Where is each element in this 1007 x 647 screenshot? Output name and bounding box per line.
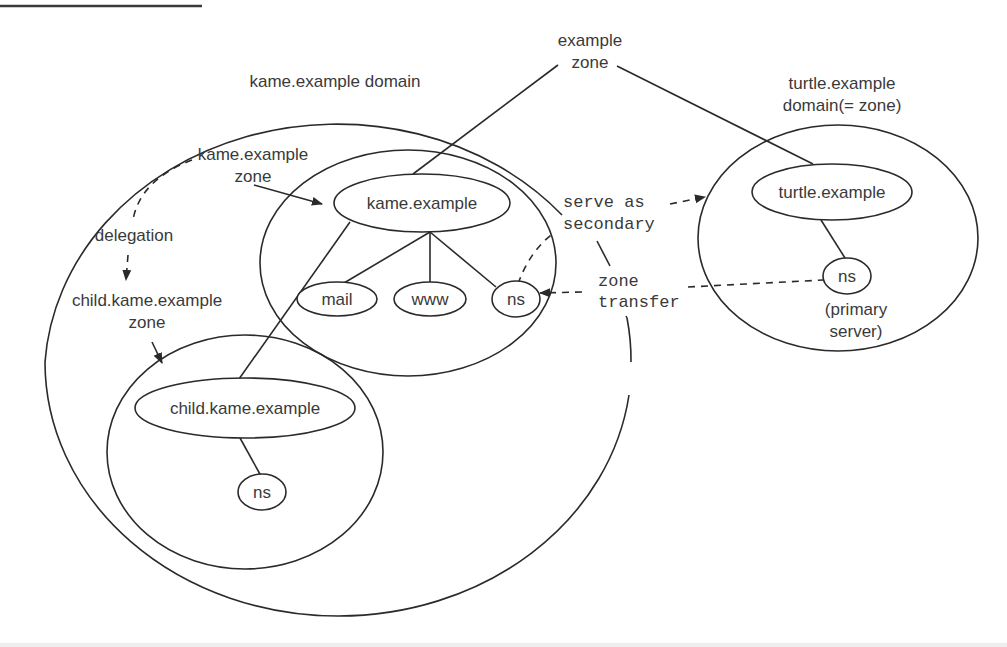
- bottom-edge: [0, 643, 1007, 647]
- child-zone-pointer: [152, 342, 162, 363]
- child-zone-label: child.kame.example: [72, 291, 222, 310]
- node-mail: mail: [297, 282, 377, 316]
- dns-zone-diagram: kame.example mail www ns child.kame.exam…: [0, 0, 1007, 647]
- edge-child-ns: [240, 438, 261, 476]
- serve-secondary-arrow: [670, 197, 705, 204]
- kame-domain-label: kame.example domain: [249, 72, 420, 91]
- edge-example-turtle: [617, 66, 813, 164]
- node-child-ns: ns: [238, 474, 286, 510]
- node-label: child.kame.example: [170, 399, 320, 418]
- zone-transfer-label: zone: [598, 272, 639, 291]
- node-child-kame-example: child.kame.example: [135, 378, 355, 438]
- child-zone-label-2: zone: [129, 313, 166, 332]
- zone-transfer-arrow-left: [540, 292, 582, 293]
- serve-secondary-link: [518, 232, 555, 284]
- node-label: kame.example: [367, 194, 478, 213]
- zone-transfer-leader-bottom: [626, 316, 627, 318]
- node-kame-example: kame.example: [334, 174, 510, 232]
- edge-kame-mail: [344, 232, 430, 283]
- node-kame-ns: ns: [492, 281, 540, 317]
- turtle-domain-label: turtle.example: [789, 74, 896, 93]
- kame-zone-pointer: [254, 185, 322, 204]
- example-zone-label-2: zone: [572, 53, 609, 72]
- node-label: ns: [838, 267, 856, 286]
- zone-transfer-leader-top: [597, 241, 610, 266]
- turtle-domain-label-2: domain(= zone): [783, 96, 902, 115]
- kame-zone-label-2: zone: [235, 167, 272, 186]
- primary-server-label-2: server): [830, 322, 883, 341]
- node-label: turtle.example: [779, 183, 886, 202]
- node-turtle-example: turtle.example: [752, 164, 912, 220]
- edge-kame-ns: [430, 232, 496, 287]
- delegation-arrow: [133, 160, 192, 220]
- primary-server-label: (primary: [825, 300, 888, 319]
- node-label: ns: [253, 483, 271, 502]
- example-zone-label: example: [558, 31, 622, 50]
- kame-domain-boundary-segment: [627, 318, 631, 362]
- zone-transfer-label-2: transfer: [598, 293, 680, 312]
- node-label: www: [411, 290, 450, 309]
- edge-example-kame: [413, 65, 558, 174]
- delegation-label: delegation: [95, 226, 173, 245]
- node-label: mail: [321, 290, 352, 309]
- node-turtle-ns: ns: [823, 258, 871, 294]
- delegation-arrow-lower: [126, 255, 128, 280]
- edge-turtle-ns: [821, 220, 845, 258]
- serve-secondary-label-2: secondary: [563, 215, 655, 234]
- node-label: ns: [507, 290, 525, 309]
- serve-secondary-label: serve as: [563, 193, 645, 212]
- node-www: www: [394, 282, 466, 316]
- kame-zone-label: kame.example: [198, 145, 309, 164]
